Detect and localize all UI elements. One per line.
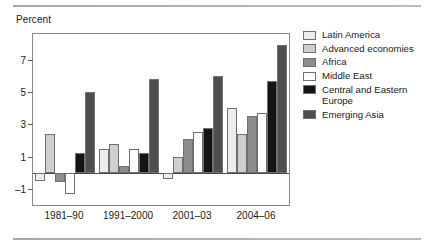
bar	[129, 149, 138, 173]
y-axis-label: 1	[20, 151, 26, 162]
bar	[193, 132, 202, 172]
legend-swatch-icon	[303, 72, 316, 81]
bar	[139, 153, 148, 172]
legend-label: Central and Eastern Europe	[322, 84, 431, 106]
bar	[173, 157, 182, 173]
bar	[149, 79, 158, 173]
y-axis-tick	[28, 60, 33, 61]
legend-swatch-icon	[303, 110, 316, 119]
legend-label: Africa	[322, 56, 347, 67]
x-axis-label: 2004–06	[237, 210, 276, 221]
y-axis-label: 7	[20, 54, 26, 65]
legend-swatch-icon	[303, 44, 316, 53]
bar	[85, 92, 94, 173]
bar	[203, 128, 212, 173]
bar	[65, 173, 74, 194]
bottom-rule	[13, 238, 421, 240]
bar	[227, 108, 236, 173]
y-axis-label: –1	[15, 183, 26, 194]
x-axis-label: 2001–03	[173, 210, 212, 221]
y-axis-tick	[28, 124, 33, 125]
bar	[99, 149, 108, 173]
x-axis-label: 1981–90	[45, 210, 84, 221]
y-axis-tick	[28, 157, 33, 158]
bar	[35, 173, 44, 181]
top-rule	[13, 5, 421, 7]
y-axis-label: 5	[20, 87, 26, 98]
bar	[109, 144, 118, 173]
legend-item[interactable]: Africa	[303, 56, 431, 67]
bar	[247, 116, 256, 172]
bar	[237, 134, 246, 173]
bar	[119, 166, 128, 172]
bar	[163, 173, 172, 179]
bar	[257, 113, 266, 173]
legend-label: Latin America	[322, 29, 380, 40]
bar	[267, 81, 276, 173]
x-axis-label: 1991–2000	[103, 210, 153, 221]
y-axis-title: Percent	[16, 14, 51, 25]
legend-label: Middle East	[322, 70, 372, 81]
legend-label: Advanced economies	[322, 43, 414, 54]
chart-legend: Latin AmericaAdvanced economiesAfricaMid…	[303, 29, 431, 122]
y-axis-tick	[28, 189, 33, 190]
bar	[277, 45, 286, 172]
bar	[55, 173, 64, 183]
bar	[75, 153, 84, 172]
y-axis-label: 3	[20, 119, 26, 130]
figure-canvas: Percent –11357 Latin AmericaAdvanced eco…	[0, 0, 434, 248]
legend-item[interactable]: Middle East	[303, 70, 431, 81]
bar	[213, 76, 222, 173]
legend-swatch-icon	[303, 58, 316, 67]
legend-item[interactable]: Latin America	[303, 29, 431, 40]
bar	[183, 139, 192, 173]
legend-label: Emerging Asia	[322, 109, 384, 120]
legend-item[interactable]: Advanced economies	[303, 43, 431, 54]
legend-item[interactable]: Emerging Asia	[303, 109, 431, 120]
legend-item[interactable]: Central and Eastern Europe	[303, 84, 431, 106]
plot-area: –11357	[32, 33, 290, 206]
y-axis-tick	[28, 92, 33, 93]
legend-swatch-icon	[303, 85, 316, 94]
bar	[45, 134, 54, 173]
legend-swatch-icon	[303, 31, 316, 40]
